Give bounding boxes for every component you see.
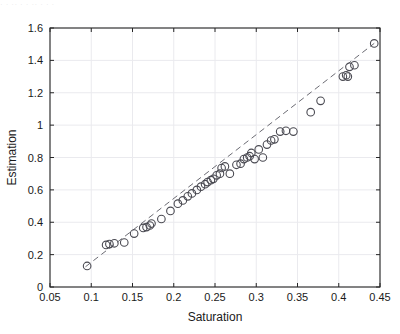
y-tick-label: 1.6 xyxy=(28,22,43,34)
y-tick-label: 0.4 xyxy=(28,216,43,228)
x-tick-label: 0.4 xyxy=(331,291,346,303)
figure-canvas: · · ·· · · ·· · · · 0.050.10.150.20.250.… xyxy=(0,0,400,334)
y-tick-label: 0.2 xyxy=(28,249,43,261)
y-tick-label: 1.2 xyxy=(28,87,43,99)
y-tick-label: 0.6 xyxy=(28,184,43,196)
x-tick-label: 0.1 xyxy=(84,291,99,303)
x-tick-label: 0.45 xyxy=(369,291,390,303)
x-tick-label: 0.35 xyxy=(287,291,308,303)
grid-lines xyxy=(50,28,380,287)
data-point xyxy=(346,63,354,71)
x-tick-label: 0.25 xyxy=(204,291,225,303)
x-tick-label: 0.3 xyxy=(249,291,264,303)
y-tick-labels: 00.20.40.60.811.21.41.6 xyxy=(28,22,43,293)
data-point xyxy=(158,215,166,223)
data-point xyxy=(130,230,138,238)
data-point xyxy=(282,127,290,135)
data-point xyxy=(226,170,234,178)
data-point xyxy=(370,40,378,48)
x-tick-labels: 0.050.10.150.20.250.30.350.40.45 xyxy=(39,291,390,303)
x-axis-label: Saturation xyxy=(188,310,243,324)
data-point xyxy=(120,239,128,247)
data-point xyxy=(351,61,359,69)
data-point xyxy=(167,207,175,215)
y-tick-label: 0 xyxy=(37,281,43,293)
data-point xyxy=(290,128,298,136)
y-axis-label: Estimation xyxy=(5,129,19,185)
data-point xyxy=(307,108,315,116)
scatter-plot: 0.050.10.150.20.250.30.350.40.45 00.20.4… xyxy=(0,0,400,334)
y-tick-label: 1.4 xyxy=(28,54,43,66)
y-tick-label: 0.8 xyxy=(28,152,43,164)
data-point xyxy=(317,97,325,105)
x-tick-label: 0.15 xyxy=(122,291,143,303)
x-tick-label: 0.2 xyxy=(166,291,181,303)
y-tick-label: 1 xyxy=(37,119,43,131)
fit-line xyxy=(85,43,374,266)
data-point xyxy=(111,239,119,247)
